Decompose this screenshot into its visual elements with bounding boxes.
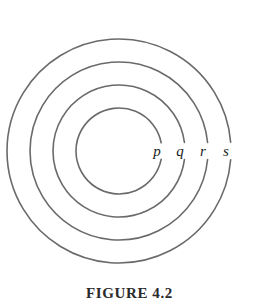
circle-ring-s bbox=[7, 39, 231, 263]
ring-label-q: q bbox=[176, 143, 184, 159]
ring-label-r: r bbox=[200, 143, 206, 159]
figure-caption: FIGURE 4.2 bbox=[0, 285, 259, 302]
circle-ring-q bbox=[53, 85, 184, 217]
ring-label-p: p bbox=[152, 143, 161, 159]
ring-label-s: s bbox=[223, 143, 229, 159]
circle-ring-p bbox=[76, 108, 161, 194]
